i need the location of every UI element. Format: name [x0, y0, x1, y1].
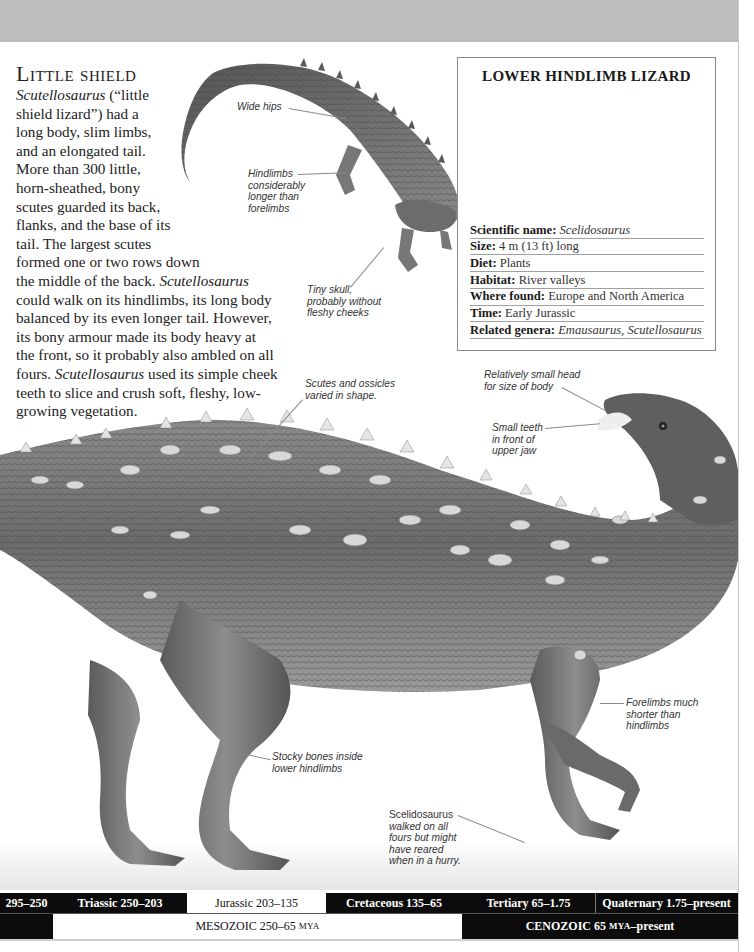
fact-row: Scientific name: Scelidosaurus: [470, 222, 704, 239]
body-line: the middle of the back. Scutellosaurus: [16, 272, 316, 291]
label-forelimbs: Forelimbs much shorter than hindlimbs: [626, 697, 698, 732]
body-line: teeth to slice and crush soft, fleshy, l…: [16, 384, 316, 403]
label-tiny-skull: Tiny skull, probably without fleshy chee…: [307, 284, 381, 319]
leader-line: [600, 703, 624, 704]
intro-section: Little shield Scutellosaurus (“little sh…: [16, 62, 316, 421]
period-triassic: Triassic 250–203: [53, 893, 187, 913]
body-line: long body, slim limbs,: [16, 123, 316, 142]
fact-row: Diet: Plants: [470, 255, 704, 272]
fact-row: Size: 4 m (13 ft) long: [470, 239, 704, 256]
body-line: fours. Scutellosaurus used its simple ch…: [16, 365, 316, 384]
body-line: formed one or two rows down: [16, 253, 316, 272]
body-line: the front, so it probably also ambled on…: [16, 346, 316, 365]
fact-list: Scientific name: Scelidosaurus Size: 4 m…: [470, 222, 704, 339]
period-tertiary: Tertiary 65–1.75: [462, 893, 595, 913]
fact-row: Related genera: Emausaurus, Scutellosaur…: [470, 322, 704, 339]
era-paleozoic-block: [0, 913, 53, 939]
label-scelidosaurus-gait: Scelidosaurus walked on all fours but mi…: [389, 809, 461, 867]
period-quaternary: Quaternary 1.75–present: [595, 893, 738, 913]
row-divider: [0, 913, 738, 914]
fact-row: Time: Early Jurassic: [470, 306, 704, 323]
divider: [595, 893, 596, 913]
fact-row: Habitat: River valleys: [470, 272, 704, 289]
label-hindlimbs: Hindlimbs considerably longer than forel…: [248, 168, 305, 214]
label-wide-hips: Wide hips: [237, 101, 282, 113]
timeline-bottom-rule: [0, 939, 738, 941]
label-small-teeth: Small teeth in front of upper jaw: [492, 422, 543, 457]
body-line: growing vegetation.: [16, 402, 316, 421]
fact-box: LOWER HINDLIMB LIZARD Scientific name: S…: [457, 57, 716, 351]
period-cretaceous: Cretaceous 135–65: [326, 893, 462, 913]
body-line: and an elongated tail.: [16, 142, 316, 161]
fact-box-title: LOWER HINDLIMB LIZARD: [458, 68, 715, 85]
fact-row: Where found: Europe and North America: [470, 289, 704, 306]
era-mesozoic: MESOZOIC 250–65 MYA: [53, 913, 462, 939]
geologic-timeline: 295–250 Triassic 250–203 Jurassic 203–13…: [0, 893, 738, 939]
body-line: balanced by its even longer tail. Howeve…: [16, 309, 316, 328]
body-line: flanks, and the base of its: [16, 216, 316, 235]
section-heading: Little shield: [16, 62, 316, 86]
label-stocky-bones: Stocky bones inside lower hindlimbs: [272, 751, 363, 774]
body-line: tail. The largest scutes: [16, 235, 316, 254]
era-cenozoic: CENOZOIC 65 MYA–present: [462, 913, 738, 939]
body-line: its bony armour made its body heavy at: [16, 328, 316, 347]
main-dinosaur-illustration: [0, 393, 738, 870]
period-jurassic: Jurassic 203–135: [187, 893, 326, 913]
period-permian: 295–250: [0, 893, 53, 913]
body-line: could walk on its hindlimbs, its long bo…: [16, 291, 316, 310]
label-scutes: Scutes and ossicles varied in shape.: [305, 378, 395, 401]
